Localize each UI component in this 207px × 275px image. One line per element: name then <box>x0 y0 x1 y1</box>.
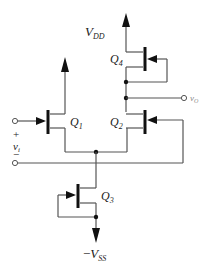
vss-label: −VSS <box>83 246 106 263</box>
transistor-q4 <box>124 47 167 112</box>
q3-label: Q3 <box>101 189 114 205</box>
minus-label: − <box>13 148 19 160</box>
input-minus-terminal <box>12 160 17 165</box>
transistor-q1 <box>12 57 69 152</box>
q1-label: Q1 <box>70 115 83 131</box>
node-q4-drain <box>124 80 128 84</box>
output-terminal <box>124 95 187 100</box>
vdd-supply-arrow <box>122 13 130 52</box>
circuit-diagram: VDD Q4 Q1 Q2 Q3 vO + vi − −VSS <box>0 0 207 275</box>
q4-label: Q4 <box>110 52 123 68</box>
input-plus-terminal <box>12 118 17 123</box>
plus-label: + <box>13 128 19 140</box>
q2-label: Q2 <box>110 115 123 131</box>
vdd-label: VDD <box>85 24 105 41</box>
vss-supply-arrow <box>92 228 100 243</box>
vo-label: vO <box>190 93 199 104</box>
transistor-q2 <box>126 110 183 163</box>
transistor-q3 <box>58 152 100 243</box>
input-minus-line <box>12 160 183 165</box>
